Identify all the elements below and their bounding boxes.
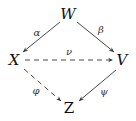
edge-phi <box>24 69 61 101</box>
edge-psi <box>79 70 116 101</box>
label-nu: ν <box>66 46 72 57</box>
label-alpha: α <box>34 27 41 38</box>
node-x: X <box>8 51 21 69</box>
label-beta: β <box>97 24 104 35</box>
commutative-diagram: W X V Z α β ν φ ψ <box>0 0 136 121</box>
edge-alpha <box>23 22 60 52</box>
label-psi: ψ <box>100 86 108 97</box>
node-v: V <box>117 51 130 69</box>
edge-beta <box>77 22 114 52</box>
node-w: W <box>60 5 77 23</box>
node-z: Z <box>64 99 74 117</box>
label-phi: φ <box>32 85 39 96</box>
